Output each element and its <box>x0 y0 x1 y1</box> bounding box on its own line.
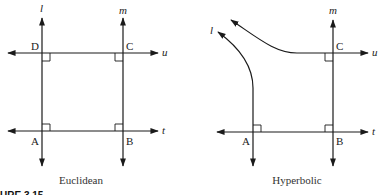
label-m: m <box>119 4 127 16</box>
label-point-b: B <box>336 135 343 147</box>
label-t: t <box>372 125 376 137</box>
geometry-figure: l m u t D C A B Euclidean l m u t C A B … <box>0 0 382 195</box>
label-m: m <box>329 4 337 16</box>
right-angle-marker-b <box>325 125 333 132</box>
label-t: t <box>162 124 166 136</box>
label-u: u <box>372 46 378 58</box>
right-angle-marker-a <box>253 125 261 132</box>
label-point-d: D <box>31 40 39 52</box>
label-point-c: C <box>336 40 343 52</box>
caption-hyperbolic: Hyperbolic <box>272 174 322 186</box>
label-l: l <box>40 2 43 14</box>
label-u: u <box>162 46 168 58</box>
right-angle-marker-b <box>115 124 123 131</box>
right-angle-marker-d <box>42 53 50 61</box>
label-point-c: C <box>126 40 133 52</box>
euclidean-diagram: l m u t D C A B Euclidean <box>8 2 168 186</box>
label-point-b: B <box>126 135 133 147</box>
figure-caption-fragment: URE 3.15 <box>0 190 44 195</box>
label-point-a: A <box>242 135 250 147</box>
label-point-a: A <box>31 135 39 147</box>
caption-euclidean: Euclidean <box>59 174 103 186</box>
label-l: l <box>210 24 213 36</box>
right-angle-marker-a <box>42 124 50 131</box>
line-u <box>231 20 368 53</box>
right-angle-marker-c <box>115 53 123 61</box>
hyperbolic-diagram: l m u t C A B Hyperbolic <box>210 4 378 186</box>
right-angle-marker-c <box>325 53 333 61</box>
